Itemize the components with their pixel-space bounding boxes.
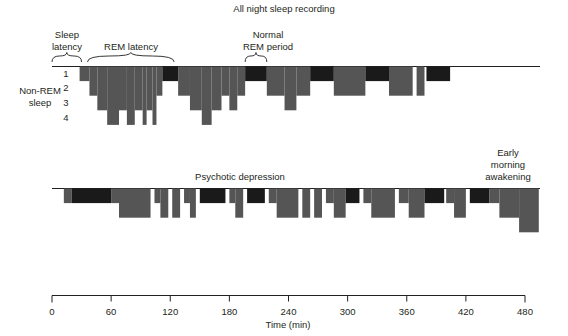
- hypnogram-segment-nonrem: [409, 189, 425, 218]
- annotation-brackets: [52, 53, 267, 63]
- hypnogram-segment-nonrem: [156, 67, 162, 96]
- hypnogram-segment-nonrem: [269, 189, 277, 204]
- annotation-early-morning-line2: morning: [491, 159, 525, 170]
- bracket-rem-latency: [87, 53, 174, 63]
- hypnogram-segment-nonrem: [314, 189, 322, 218]
- hypnogram-top-normal: [80, 67, 451, 125]
- hypnogram-segment-nonrem: [417, 67, 425, 96]
- hypnogram-segment-nonrem: [490, 189, 500, 204]
- annotation-rem-latency: REM latency: [104, 41, 158, 52]
- hypnogram-segment-nonrem: [80, 67, 90, 82]
- hypnogram-segment-nonrem: [127, 67, 135, 125]
- hypnogram-segment-nonrem: [237, 67, 245, 96]
- hypnogram-segment-nonrem: [111, 189, 119, 204]
- hypnogram-segment-rem: [200, 189, 226, 204]
- hypnogram-segment-nonrem: [119, 189, 151, 218]
- hypnogram-segment-nonrem: [64, 189, 72, 204]
- hypnogram-segment-nonrem: [221, 67, 229, 96]
- hypnogram-segment-nonrem: [190, 189, 196, 218]
- hypnogram-segment-rem: [162, 67, 178, 82]
- hypnogram-segment-nonrem: [267, 67, 285, 96]
- hypnogram-segment-nonrem: [371, 189, 395, 218]
- hypnogram-bottom-psychotic: [64, 189, 539, 233]
- hypnogram-segment-rem: [245, 67, 267, 82]
- hypnogram-segment-nonrem: [97, 67, 107, 111]
- x-tick-label: 180: [221, 306, 237, 317]
- hypnogram-segment-nonrem: [154, 189, 160, 204]
- x-tick-label: 240: [281, 306, 297, 317]
- x-tick-label: 480: [517, 306, 533, 317]
- hypnogram-segment-nonrem: [119, 67, 127, 111]
- annotation-sleep-latency-line1: Sleep: [55, 29, 79, 40]
- x-tick-label: 120: [162, 306, 178, 317]
- x-tick-label: 300: [340, 306, 356, 317]
- annotation-early-morning-line3: awakening: [485, 171, 530, 182]
- hypnogram-segment-nonrem: [454, 189, 466, 218]
- hypnogram-segment-rem: [310, 67, 334, 82]
- stage-tick-4: 4: [63, 112, 68, 123]
- hypnogram-segment-nonrem: [499, 189, 519, 218]
- hypnogram-segment-rem: [247, 189, 265, 204]
- annotation-normal: Normal: [253, 29, 284, 40]
- hypnogram-segment-nonrem: [334, 67, 366, 96]
- annotation-psychotic-depression: Psychotic depression: [195, 171, 285, 182]
- hypnogram-segment-nonrem: [229, 67, 237, 111]
- hypnogram-segment-nonrem: [160, 189, 168, 218]
- hypnogram-segment-nonrem: [147, 67, 153, 111]
- hypnogram-segment-nonrem: [153, 67, 157, 125]
- hypnogram-segment-nonrem: [107, 67, 119, 125]
- hypnogram-segment-nonrem: [519, 189, 539, 233]
- hypnogram-svg: All night sleep recording Sleep latency …: [0, 0, 568, 336]
- hypnogram-segment-nonrem: [229, 189, 235, 204]
- hypnogram-segment-nonrem: [172, 189, 180, 218]
- stage-tick-labels: 1234: [63, 68, 68, 123]
- bracket-rem-period: [245, 53, 267, 63]
- hypnogram-segment-rem: [424, 189, 444, 204]
- hypnogram-segment-nonrem: [178, 67, 190, 96]
- hypnogram-segment-nonrem: [235, 189, 243, 218]
- x-tick-label: 0: [49, 306, 54, 317]
- annotation-early-morning-line1: Early: [497, 147, 519, 158]
- hypnogram-segment-nonrem: [277, 189, 299, 218]
- x-axis-title: Time (min): [265, 319, 310, 330]
- annotation-sleep-latency-line2: latency: [52, 41, 82, 52]
- hypnogram-segment-nonrem: [202, 67, 212, 125]
- y-axis-label-line2: sleep: [29, 97, 52, 108]
- hypnogram-segment-nonrem: [190, 67, 202, 111]
- x-tick-label: 420: [458, 306, 474, 317]
- hypnogram-segment-nonrem: [135, 67, 143, 111]
- hypnogram-segment-nonrem: [399, 189, 409, 204]
- stage-tick-2: 2: [63, 82, 68, 93]
- x-tick-label: 360: [399, 306, 415, 317]
- x-axis-ticks: 060120180240300360420480: [49, 296, 533, 317]
- hypnogram-segment-nonrem: [389, 67, 413, 96]
- y-axis-label-line1: Non-REM: [19, 85, 61, 96]
- hypnogram-segment-nonrem: [296, 67, 310, 96]
- stage-tick-1: 1: [63, 68, 68, 79]
- hypnogram-segment-nonrem: [143, 67, 147, 125]
- hypnogram-segment-nonrem: [446, 189, 454, 204]
- hypnogram-segment-nonrem: [89, 67, 97, 96]
- hypnogram-segment-rem: [470, 189, 490, 204]
- hypnogram-segment-nonrem: [302, 189, 310, 218]
- stage-tick-3: 3: [63, 97, 68, 108]
- hypnogram-segment-nonrem: [334, 189, 346, 218]
- hypnogram-segment-nonrem: [326, 189, 334, 204]
- sleep-hypnogram-figure: All night sleep recording Sleep latency …: [0, 0, 568, 336]
- hypnogram-segment-rem: [365, 67, 389, 82]
- bracket-sleep-latency: [52, 53, 82, 63]
- hypnogram-segment-rem: [426, 67, 450, 82]
- hypnogram-segment-nonrem: [212, 67, 222, 111]
- x-tick-label: 60: [106, 306, 117, 317]
- hypnogram-segment-nonrem: [184, 189, 190, 204]
- hypnogram-segment-rem: [72, 189, 111, 204]
- figure-title: All night sleep recording: [233, 3, 334, 14]
- annotation-rem-period: REM period: [243, 41, 293, 52]
- hypnogram-segment-nonrem: [363, 189, 371, 204]
- hypnogram-segment-nonrem: [285, 67, 297, 111]
- hypnogram-segment-rem: [346, 189, 360, 204]
